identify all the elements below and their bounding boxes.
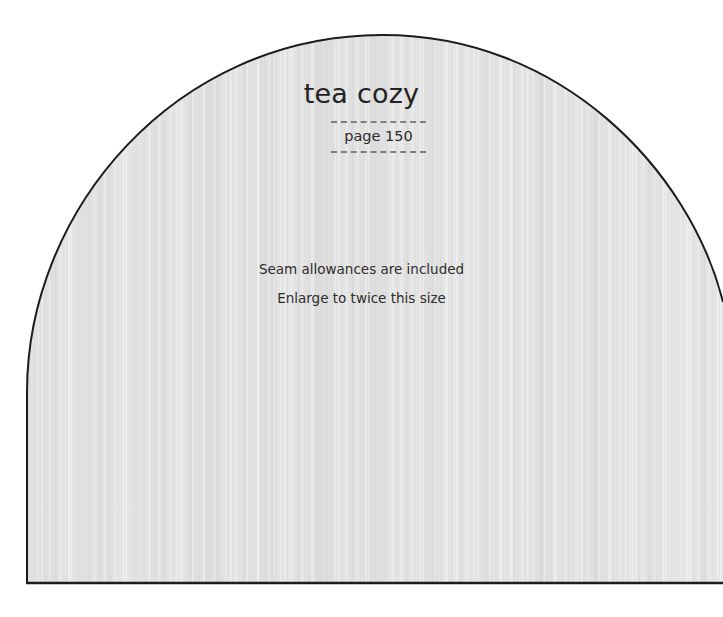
page-reference-block: page 150	[331, 121, 426, 153]
page-reference-label: page 150	[331, 123, 426, 151]
pattern-sheet-page: tea cozy page 150 Seam allowances are in…	[0, 0, 723, 617]
tea-cozy-pattern-shape	[0, 0, 723, 617]
paper-texture-coarse	[0, 0, 723, 617]
page-reference-bottom-rule	[331, 151, 426, 153]
pattern-body	[0, 0, 723, 617]
page-reference-top-rule	[331, 121, 426, 123]
